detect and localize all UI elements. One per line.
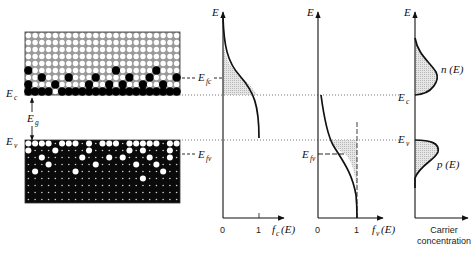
ev-label: E v	[5, 135, 18, 150]
empty-state	[120, 61, 125, 66]
filled-state	[102, 150, 104, 152]
filled-state	[102, 157, 104, 159]
empty-state	[100, 54, 105, 59]
filled-state	[55, 199, 57, 201]
empty-state	[80, 75, 85, 80]
filled-state	[135, 199, 137, 201]
filled-state	[88, 157, 90, 159]
filled-state	[61, 171, 63, 173]
empty-state	[174, 33, 179, 38]
eg-bandgap-arrow: E g	[26, 98, 39, 140]
hole	[39, 154, 45, 160]
empty-state	[26, 40, 31, 45]
filled-state	[162, 178, 164, 180]
empty-state	[93, 54, 98, 59]
filled-state	[48, 192, 50, 194]
filled-state	[28, 192, 30, 194]
empty-state	[140, 33, 145, 38]
filled-state	[55, 164, 57, 166]
filled-state	[75, 157, 77, 159]
empty-state	[73, 82, 78, 87]
filled-state	[135, 150, 137, 152]
fv-shaded-area	[330, 140, 358, 200]
svg-text:(E): (E)	[381, 223, 395, 236]
filled-state	[129, 164, 131, 166]
empty-state	[59, 75, 64, 80]
empty-state	[73, 33, 78, 38]
filled-state	[102, 171, 104, 173]
empty-state	[113, 47, 118, 52]
svg-text:v: v	[14, 141, 18, 150]
filled-state	[176, 150, 178, 152]
filled-state	[68, 185, 70, 187]
filled-state	[48, 199, 50, 201]
filled-state	[149, 171, 151, 173]
empty-state	[113, 54, 118, 59]
empty-state	[154, 82, 159, 87]
filled-state	[108, 192, 110, 194]
filled-state	[81, 150, 83, 152]
filled-state	[135, 192, 137, 194]
empty-state	[93, 47, 98, 52]
filled-state	[122, 178, 124, 180]
empty-state	[167, 54, 172, 59]
filled-state	[176, 199, 178, 201]
filled-state	[88, 185, 90, 187]
empty-state	[93, 40, 98, 45]
filled-state	[115, 157, 117, 159]
filled-state	[156, 199, 158, 201]
filled-state	[55, 157, 57, 159]
hole	[140, 175, 146, 181]
svg-text:E: E	[197, 71, 205, 83]
empty-state	[86, 75, 91, 80]
filled-state	[95, 157, 97, 159]
filled-state	[75, 164, 77, 166]
empty-state	[154, 47, 159, 52]
filled-state	[95, 192, 97, 194]
filled-state	[88, 164, 90, 166]
filled-state	[68, 164, 70, 166]
empty-state	[80, 47, 85, 52]
empty-state	[86, 68, 91, 73]
empty-state	[46, 82, 51, 87]
filled-state	[108, 171, 110, 173]
filled-state	[115, 192, 117, 194]
hole	[126, 140, 132, 146]
hole	[167, 154, 173, 160]
filled-state	[75, 185, 77, 187]
empty-state	[66, 82, 71, 87]
svg-text:concentration: concentration	[417, 236, 471, 246]
filled-state	[108, 178, 110, 180]
filled-state	[68, 150, 70, 152]
filled-state	[95, 143, 97, 145]
empty-state	[120, 75, 125, 80]
filled-state	[68, 157, 70, 159]
hole	[52, 147, 58, 153]
empty-state	[154, 54, 159, 59]
hole	[160, 168, 166, 174]
filled-state	[162, 164, 164, 166]
empty-state	[147, 68, 152, 73]
hole	[66, 140, 72, 146]
filled-state	[75, 192, 77, 194]
svg-text:g: g	[35, 118, 39, 127]
empty-state	[86, 61, 91, 66]
empty-state	[134, 75, 139, 80]
empty-state	[53, 61, 58, 66]
filled-state	[75, 150, 77, 152]
svg-text:E: E	[26, 112, 34, 124]
filled-state	[142, 157, 144, 159]
filled-state	[41, 199, 43, 201]
empty-state	[113, 75, 118, 80]
empty-state	[66, 47, 71, 52]
empty-state	[53, 33, 58, 38]
electron	[65, 73, 73, 81]
filled-state	[169, 199, 171, 201]
filled-state	[135, 178, 137, 180]
empty-state	[32, 75, 37, 80]
empty-state	[167, 33, 172, 38]
filled-state	[129, 171, 131, 173]
filled-state	[169, 185, 171, 187]
filled-state	[41, 178, 43, 180]
filled-state	[129, 199, 131, 201]
